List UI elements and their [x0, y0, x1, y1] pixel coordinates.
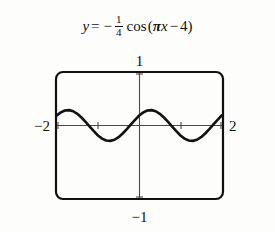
fraction-denominator: 4: [115, 27, 123, 39]
equation-phase-constant: 4: [180, 18, 188, 34]
fraction-numerator: 1: [115, 14, 123, 27]
label-y-max: 1: [136, 53, 144, 69]
equation-x-variable: x: [161, 18, 168, 34]
equation-function-name: cos: [127, 18, 147, 34]
label-x-min: −2: [34, 118, 50, 134]
equation-fraction: 14: [115, 14, 123, 38]
equation-caption: y=−14cos (πx−4): [0, 14, 275, 38]
equation-leading-minus: −: [102, 18, 114, 34]
label-y-min: −1: [132, 209, 148, 225]
calculator-screen-plot: 1 −1 −2 2: [0, 44, 275, 232]
graph-panel: 1 −1 −2 2: [0, 44, 275, 232]
equation-close-paren: ): [188, 18, 193, 34]
equation-inner-minus: −: [168, 18, 180, 34]
label-x-max: 2: [229, 118, 237, 134]
figure-container: y=−14cos (πx−4) 1 −1 −2 2: [0, 0, 275, 232]
equation-pi: π: [153, 18, 161, 34]
equation-equals: =: [89, 18, 101, 34]
